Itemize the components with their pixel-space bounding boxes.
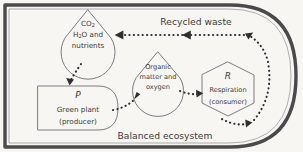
consumer-line1: Respiration xyxy=(209,86,246,94)
balanced-ecosystem-caption: Balanced ecosystem xyxy=(118,130,213,141)
producer-symbol: P xyxy=(75,90,81,100)
producer-line2: (producer) xyxy=(59,117,97,126)
organic-pool-line1: Organic xyxy=(145,63,171,71)
node-inorganic-pool: CO2 H2O and nutrients xyxy=(61,10,115,79)
flow-consumer-to-recycled-waste xyxy=(222,119,252,127)
flow-recycled-waste-to-inorganic-pool xyxy=(115,31,244,40)
flow-return-loop-arc xyxy=(245,33,269,120)
inorganic-pool-line2: H2O and xyxy=(73,30,103,40)
recycled-waste-label: Recycled waste xyxy=(160,16,232,27)
consumer-symbol: R xyxy=(225,71,231,81)
inorganic-pool-line3: nutrients xyxy=(72,41,105,50)
inorganic-pool-line1: CO2 xyxy=(81,19,95,29)
node-consumer: R Respiration (consumer) xyxy=(202,62,254,116)
producer-line1: Green plant xyxy=(57,105,100,114)
node-producer: P Green plant (producer) xyxy=(38,86,118,130)
ecosystem-diagram: CO2 H2O and nutrients Organic matter and… xyxy=(0,0,303,152)
consumer-line2: (consumer) xyxy=(209,98,247,106)
node-organic-pool: Organic matter and oxygen xyxy=(133,52,184,116)
flow-inorganic-pool-to-producer xyxy=(66,64,81,85)
organic-pool-line2: matter and xyxy=(140,73,177,81)
organic-pool-line3: oxygen xyxy=(146,83,170,91)
